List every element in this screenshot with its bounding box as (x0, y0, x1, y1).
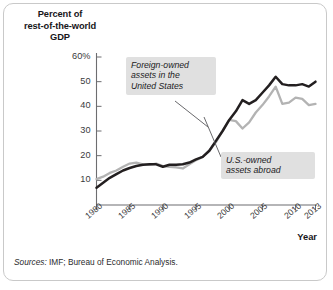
y-tick-label: 20 (57, 150, 91, 160)
y-tick-label: 60% (57, 51, 91, 61)
y-tick-label: 10 (57, 174, 91, 184)
annotation-usowned-line-2: assets abroad (226, 165, 310, 175)
plot-area (0, 0, 333, 290)
x-axis-title: Year (297, 232, 317, 242)
source-note: Sources: IMF; Bureau of Economic Analysi… (14, 257, 178, 267)
annotation-foreign-line-1: Foreign-owned (131, 60, 211, 70)
annotation-usowned-line-1: U.S.-owned (226, 155, 310, 165)
source-note-lead: Sources: (14, 257, 47, 267)
annotation-foreign-owned-assets: Foreign-owned assets in the United State… (126, 57, 216, 95)
leader-lines-group (175, 101, 221, 157)
annotation-us-owned-assets: U.S.-owned assets abroad (221, 152, 315, 179)
y-tick-label: 30 (57, 125, 91, 135)
source-note-body: IMF; Bureau of Economic Analysis. (47, 257, 178, 267)
annotation-foreign-line-3: United States (131, 81, 211, 91)
leader-line-foreign (175, 101, 208, 127)
y-tick-label: 50 (57, 76, 91, 86)
chart-figure: Percent of rest-of-the-world GDP 1020304… (0, 0, 333, 290)
y-tick-label: 40 (57, 100, 91, 110)
annotation-foreign-line-2: assets in the (131, 70, 211, 80)
